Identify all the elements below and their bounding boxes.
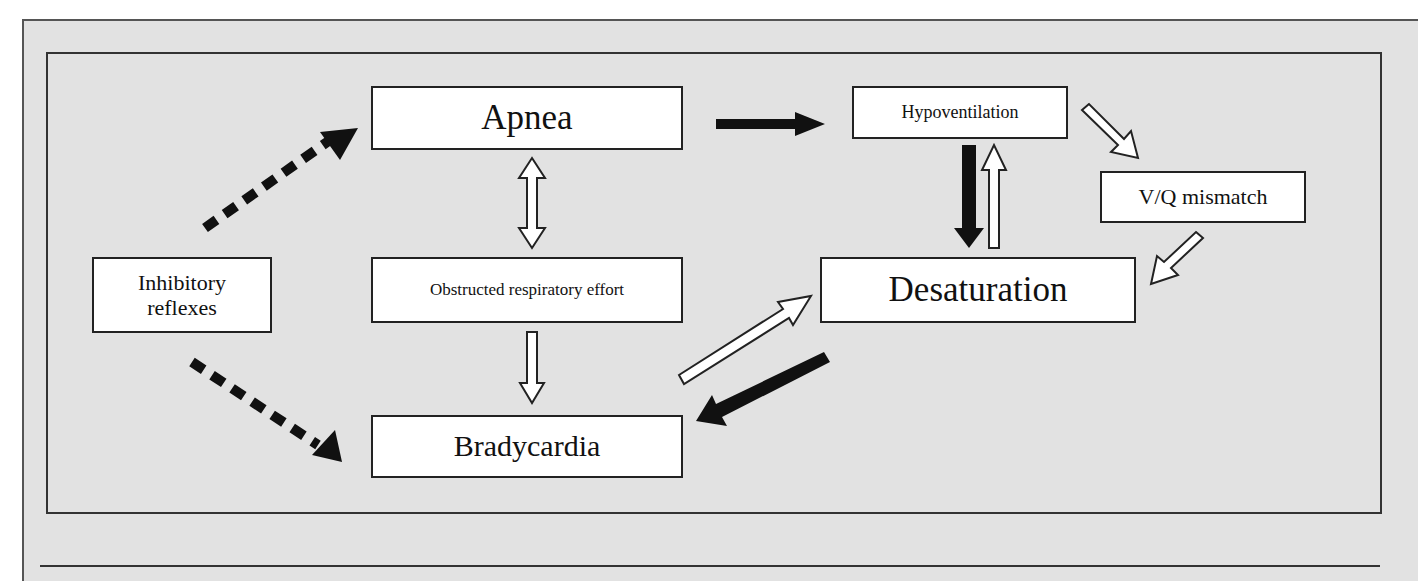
dashed-arrow-icon-inhibitory-to-apnea [205,128,358,228]
hollow-arrow-icon-desaturation-to-hypoventilation [982,145,1006,248]
hollow-arrow-icon-hypoventilation-to-vq [1082,104,1138,158]
hollow-arrow-icon-vq-to-desaturation [1151,232,1203,284]
hollow-arrow-icon-obstructed-to-bradycardia [520,332,544,403]
hollow-double-arrow-icon-apnea-obstructed [519,158,545,248]
solid-arrow-icon-hypoventilation-to-desaturation [954,145,984,248]
dashed-arrow-icon-inhibitory-to-bradycardia [192,362,342,462]
solid-arrow-icon-apnea-to-hypoventilation [716,112,825,136]
